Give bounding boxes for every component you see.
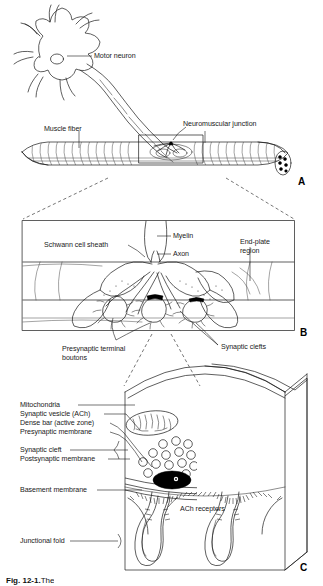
leader-presyn-membrane — [110, 432, 142, 462]
label-dense-bar: Dense bar (active zone) — [20, 419, 94, 427]
label-schwann-cell-sheath: Schwann cell sheath — [44, 241, 108, 249]
synaptic-cleft-line — [125, 484, 285, 494]
label-presynaptic-terminal-line2: boutons — [62, 354, 87, 362]
nmj-inset-box — [139, 135, 203, 163]
label-myelin: Myelin — [173, 232, 193, 240]
label-presynaptic-membrane: Presynaptic membrane — [20, 428, 92, 436]
dendrites — [14, 5, 99, 100]
label-synaptic-cleft: Synaptic cleft — [20, 446, 62, 454]
block-top-front — [125, 366, 285, 392]
panel-b-frame — [23, 221, 295, 331]
leader-bouton-a — [112, 318, 116, 340]
panel-c-artwork — [70, 364, 307, 570]
myelin-right-edge — [159, 221, 167, 262]
label-muscle-fiber: Muscle fiber — [44, 125, 82, 133]
block-top-curve-dup — [205, 366, 285, 392]
label-neuromuscular-junction: Neuromuscular junction — [183, 120, 256, 128]
label-synaptic-vesicle: Synaptic vesicle (ACh) — [20, 410, 90, 418]
figure-caption: Fig. 12-1.The — [6, 576, 54, 585]
mitochondrion-left — [125, 408, 179, 437]
label-presynaptic-terminal-line1: Presynaptic terminal — [62, 345, 125, 353]
myelin-left-edge — [145, 221, 152, 262]
block-side — [285, 378, 307, 570]
label-mitochondria: Mitochondria — [20, 401, 60, 409]
mitochondrion-right — [205, 408, 259, 437]
dense-bar-right — [220, 471, 258, 489]
panel-letter-c: C — [300, 562, 307, 573]
bouton-cluster-left — [93, 296, 134, 329]
label-motor-neuron: Motor neuron — [94, 52, 136, 60]
neuromuscular-junction-figure: .ln{fill:none;stroke:#1a1a1a;stroke-widt… — [0, 0, 323, 586]
label-synaptic-clefts: Synaptic clefts — [221, 343, 266, 351]
label-postsynaptic-membrane: Postsynaptic membrane — [20, 455, 95, 463]
expand-line-left — [23, 178, 108, 219]
presynaptic-membrane-line — [125, 478, 285, 488]
label-ach-receptors: ACh receptors — [180, 505, 225, 513]
leader-schwann — [128, 245, 145, 257]
junctional-folds — [128, 492, 282, 566]
expand-line-right — [226, 178, 294, 219]
caption-text: The — [41, 576, 55, 585]
panel-letter-a: A — [298, 176, 305, 187]
fold-bracket — [118, 534, 121, 548]
panel-a-artwork — [14, 5, 294, 219]
label-end-plate-region-line1: End-plate — [240, 238, 270, 246]
muscle-striations — [29, 140, 284, 166]
motor-axon — [80, 64, 177, 162]
panel-letter-b: B — [300, 327, 307, 338]
expand-line-left-c — [124, 334, 152, 386]
figure-artwork: .ln{fill:none;stroke:#1a1a1a;stroke-widt… — [0, 0, 323, 586]
leader-nmj-curve — [173, 127, 186, 140]
label-basement-membrane: Basement membrane — [20, 486, 87, 494]
motor-neuron-soma — [34, 8, 100, 80]
caption-number: Fig. 12-1. — [6, 576, 41, 585]
label-end-plate-region-line2: region — [240, 247, 259, 255]
leader-clefts-a — [196, 323, 218, 345]
synaptic-vesicles-right — [211, 438, 262, 475]
label-junctional-fold: Junctional fold — [20, 537, 65, 545]
dense-bar-left — [153, 471, 191, 489]
label-axon: Axon — [173, 250, 189, 258]
leader-bouton-b — [116, 323, 150, 340]
expand-line-right-c — [171, 334, 200, 386]
